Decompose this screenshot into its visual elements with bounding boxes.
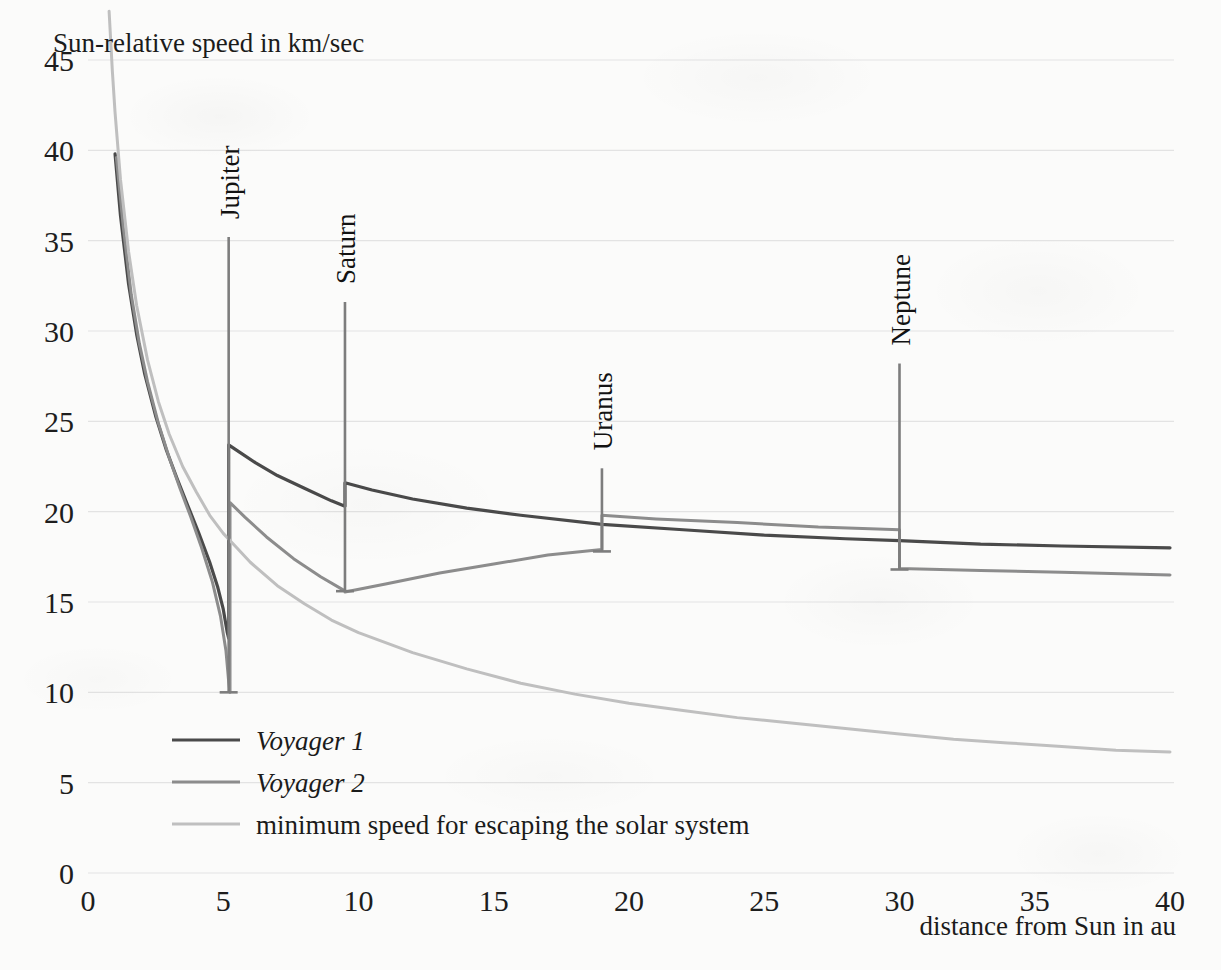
x-tick-label-20: 20 [614,884,644,917]
planet-markers [220,237,909,692]
y-tick-label-5: 5 [59,767,74,800]
y-axis-tick-labels: 051015202530354045 [44,44,74,890]
series-line-voyager-2 [116,158,1170,693]
y-axis-title: Sun-relative speed in km/sec [53,28,364,58]
x-tick-label-15: 15 [479,884,509,917]
voyager-speed-chart: 051015202530354045 0510152025303540 Jupi… [0,0,1221,970]
chart-canvas: 051015202530354045 0510152025303540 Jupi… [0,0,1221,970]
x-tick-label-30: 30 [885,884,915,917]
y-tick-label-25: 25 [44,405,74,438]
series-line-voyager-1 [115,154,1170,638]
legend-label-minimum-speed-for-escaping-the-solar-system: minimum speed for escaping the solar sys… [256,810,749,840]
legend-label-voyager-1: Voyager 1 [256,726,365,756]
data-series [109,11,1170,752]
planet-label-saturn: Saturn [331,213,361,284]
legend-label-voyager-2: Voyager 2 [256,768,365,798]
y-tick-label-35: 35 [44,225,74,258]
series-line-minimum-speed-for-escaping-the-solar-system [109,11,1170,752]
y-tick-label-0: 0 [59,857,74,890]
x-tick-label-5: 5 [216,884,231,917]
planet-label-uranus: Uranus [588,372,618,450]
x-tick-label-10: 10 [344,884,374,917]
y-tick-label-30: 30 [44,315,74,348]
y-tick-label-10: 10 [44,676,74,709]
y-tick-label-40: 40 [44,134,74,167]
x-tick-label-0: 0 [81,884,96,917]
y-tick-label-15: 15 [44,586,74,619]
planet-label-jupiter: Jupiter [215,146,245,220]
x-axis-title: distance from Sun in au [920,911,1177,941]
gridlines [88,60,1174,873]
x-tick-label-25: 25 [749,884,779,917]
planet-labels: JupiterSaturnUranusNeptune [215,146,916,451]
y-tick-label-20: 20 [44,496,74,529]
planet-label-neptune: Neptune [886,254,916,345]
